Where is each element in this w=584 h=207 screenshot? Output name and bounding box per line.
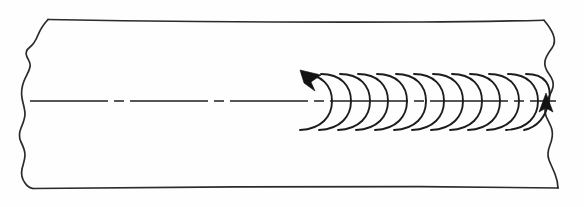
shaft-outline-group xyxy=(33,20,558,189)
shaft-bottom-edge xyxy=(33,187,558,189)
left-break-line-group xyxy=(20,20,49,189)
drawing-canvas xyxy=(0,0,584,207)
start-arrowhead-icon xyxy=(300,70,321,91)
left-freehand-break-icon xyxy=(20,20,49,189)
technical-drawing-figure: Shaft with helical torque indication Tec… xyxy=(0,0,584,207)
helix-loop-group xyxy=(300,74,550,130)
shaft-top-edge xyxy=(48,20,544,23)
